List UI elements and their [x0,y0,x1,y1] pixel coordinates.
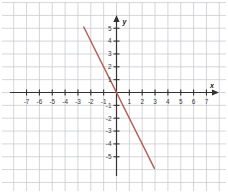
y-axis-arrow [113,15,119,22]
coordinate-plane-figure: -7-6-5-4-3-2-1123456754321-1-2-3-4-5xy [0,0,228,193]
y-tick-label: -2 [106,115,112,122]
x-tick-label: -7 [24,98,30,105]
x-tick-label: 5 [179,98,183,105]
y-tick-label: -4 [106,140,112,147]
x-tick-label: 1 [128,98,132,105]
y-tick-label: -1 [106,102,112,109]
x-tick-label: -3 [75,98,81,105]
x-tick-label: 7 [205,98,209,105]
y-tick-label: -5 [106,153,112,160]
y-tick-label: 4 [108,37,112,44]
y-tick-label: 1 [108,76,112,83]
y-tick-label: 5 [108,25,112,32]
x-tick-label: 6 [192,98,196,105]
y-tick-label: -3 [106,127,112,134]
plot-canvas: -7-6-5-4-3-2-1123456754321-1-2-3-4-5xy [0,0,228,193]
x-tick-label: 3 [153,98,157,105]
y-tick-label: 3 [108,50,112,57]
x-tick-label: -2 [88,98,94,105]
x-tick-label: -6 [37,98,43,105]
x-tick-label: -5 [49,98,55,105]
x-axis-arrow [212,89,219,95]
y-axis-label: y [122,18,128,26]
x-tick-label: 2 [140,98,144,105]
x-tick-label: -4 [62,98,68,105]
x-tick-label: 4 [166,98,170,105]
grid-lines [2,2,226,191]
x-axis-label: x [209,82,215,89]
y-tick-label: 2 [108,63,112,70]
axes [10,15,219,176]
